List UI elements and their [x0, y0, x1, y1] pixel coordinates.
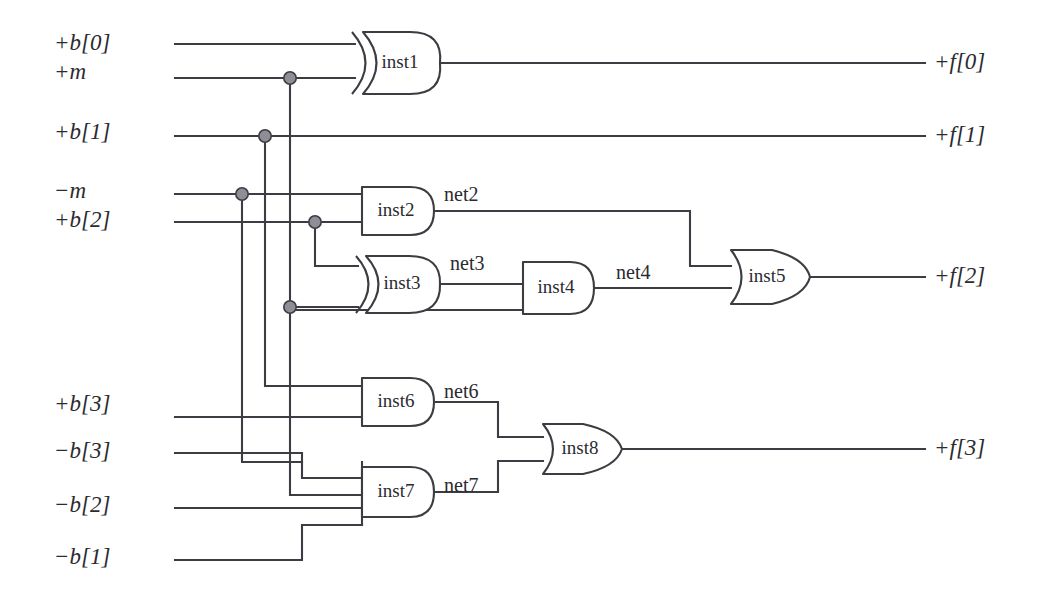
port-label-out-f1: +f[1] [934, 123, 985, 146]
port-label-in-b3p: +b[3] [54, 392, 110, 415]
port-label-in-mn: −m [54, 179, 86, 202]
gate-inst3-label: inst3 [384, 272, 421, 293]
net-label-net4: net4 [616, 261, 650, 283]
gate-inst6[interactable]: inst6 [362, 378, 434, 426]
net-label-net2: net2 [444, 183, 478, 205]
gate-inst1-xor-arc [352, 32, 366, 94]
port-label-out-f0: +f[0] [934, 50, 985, 73]
junction-dot-b1 [259, 130, 271, 142]
junction-dot-b2 [309, 216, 321, 228]
schematic-canvas: inst1 inst2 inst3 inst4 inst5 [0, 0, 1043, 603]
gate-inst1-label: inst1 [382, 51, 419, 72]
gate-inst4-label: inst4 [538, 276, 575, 297]
net-label-net6: net6 [444, 380, 478, 402]
gate-inst2[interactable]: inst2 [362, 187, 434, 235]
port-label-in-b1: +b[1] [54, 120, 110, 143]
gate-inst2-label: inst2 [378, 199, 415, 220]
port-label-in-b0: +b[0] [54, 31, 110, 54]
net-label-net3: net3 [450, 252, 484, 274]
port-label-in-b2: +b[2] [54, 208, 110, 231]
port-label-out-f2: +f[2] [934, 264, 985, 287]
junction-dot-mn [236, 188, 248, 200]
wire-b2-branch-inst3 [315, 222, 358, 266]
net-label-net7: net7 [444, 474, 478, 496]
gate-inst7[interactable]: inst7 [362, 467, 434, 517]
junction-dot-m [284, 72, 296, 84]
gate-inst7-label: inst7 [378, 480, 415, 501]
port-label-in-b2n: −b[2] [54, 493, 110, 516]
gate-layer: inst1 inst2 inst3 inst4 inst5 [352, 32, 810, 517]
gate-inst3-xor-arc [356, 256, 369, 313]
port-label-out-f3: +f[3] [934, 436, 985, 459]
port-label-in-b1n: −b[1] [54, 545, 110, 568]
wire-net6-to-inst8 [434, 402, 543, 437]
port-label-in-b3n: −b[3] [54, 439, 110, 462]
wire-mn-branch-vertical [242, 194, 302, 462]
junction-dot-trunk [284, 301, 296, 313]
wire-b1n-to-inst7 [175, 525, 362, 560]
port-label-in-m: +m [54, 60, 86, 83]
wire-b3n-to-inst7 [175, 453, 362, 478]
junction-layer [236, 72, 321, 313]
gate-inst6-label: inst6 [378, 390, 415, 411]
gate-inst5-label: inst5 [749, 265, 786, 286]
gate-inst3[interactable]: inst3 [356, 256, 440, 313]
gate-inst4[interactable]: inst4 [523, 262, 594, 314]
gate-inst8-label: inst8 [562, 437, 599, 458]
gate-inst5[interactable]: inst5 [731, 250, 810, 304]
gate-inst8[interactable]: inst8 [543, 424, 622, 474]
wire-m-trunk-lower [290, 307, 362, 495]
wire-b1-branch-vertical [265, 136, 362, 386]
gate-inst1[interactable]: inst1 [352, 32, 440, 94]
schematic-sheet: inst1 inst2 inst3 inst4 inst5 [0, 0, 1043, 603]
